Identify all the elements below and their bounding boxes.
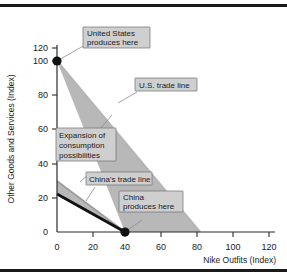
annotation-chinas-trade-line: China's trade line (86, 172, 152, 185)
y-tick-label-100: 100 (33, 56, 48, 66)
datapoint-united-states-produces (52, 56, 61, 65)
y-tick-label-80: 80 (38, 90, 48, 100)
annotation-expansion-of-consumption-possibilities: Expansion of consumption possibilities (56, 128, 116, 161)
y-axis-ticks (52, 48, 57, 198)
leader-us-produces (57, 45, 85, 61)
x-tick-label-80: 80 (192, 242, 202, 252)
leader-us-trade-line (118, 92, 137, 103)
datapoint-china-produces (120, 227, 129, 236)
y-axis-title: Other Goods and Services (Index) (6, 74, 16, 203)
us-produces-line1: United States (87, 29, 135, 38)
x-tick-label-40: 40 (120, 242, 130, 252)
x-tick-label-100: 100 (225, 242, 240, 252)
china-produces-line1: China (123, 193, 144, 202)
x-tick-label-0: 0 (54, 242, 59, 252)
us-trade-line-label: U.S. trade line (139, 81, 190, 90)
expansion-line3: possibilities (59, 151, 100, 160)
leader-china-trade-line (86, 187, 95, 201)
expansion-line2: consumption (59, 141, 104, 150)
y-tick-label-0: 0 (43, 227, 48, 237)
annotation-united-states-produces-here: United States produces here (83, 27, 150, 48)
x-tick-label-120: 120 (261, 242, 276, 252)
annotation-us-trade-line: U.S. trade line (135, 78, 197, 91)
us-produces-line2: produces here (87, 38, 139, 47)
y-tick-label-60: 60 (38, 124, 48, 134)
china-trade-line-label: China's trade line (89, 175, 151, 184)
x-axis-title: Nike Outfits (Index) (203, 255, 276, 265)
figure-container: 120 100 80 60 40 20 0 0 20 40 60 80 100 … (0, 0, 287, 277)
ppf-trade-chart: 120 100 80 60 40 20 0 0 20 40 60 80 100 … (0, 7, 287, 269)
x-tick-label-60: 60 (156, 242, 166, 252)
bottom-rule (0, 269, 287, 272)
china-produces-line2: produces here (123, 202, 175, 211)
y-tick-label-40: 40 (38, 159, 48, 169)
x-tick-label-20: 20 (88, 242, 98, 252)
expansion-line1: Expansion of (59, 131, 106, 140)
x-axis-ticks (93, 232, 269, 237)
y-tick-label-20: 20 (38, 193, 48, 203)
y-tick-label-120: 120 (33, 43, 48, 53)
annotation-china-produces-here: China produces here (119, 191, 183, 212)
